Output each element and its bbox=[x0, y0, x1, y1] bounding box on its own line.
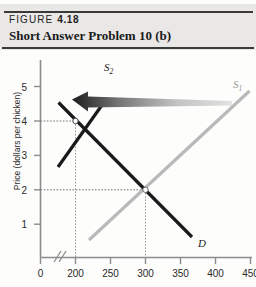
figure-caption-line: FIGURE 4.18 bbox=[9, 14, 79, 25]
x-tick-label-450: 450 bbox=[242, 268, 256, 279]
x-tick-label-250: 250 bbox=[102, 268, 119, 279]
curve-label-s2: S2 bbox=[104, 61, 114, 76]
x-axis-break-icon bbox=[54, 251, 66, 262]
x-tick-label-400: 400 bbox=[207, 268, 224, 279]
curve-label-d: D bbox=[197, 237, 206, 249]
equilibrium-marker-old bbox=[143, 187, 148, 192]
figure-panel: FIGURE 4.18 Short Answer Problem 10 (b) … bbox=[0, 0, 256, 287]
curve-label-s1: S1 bbox=[233, 78, 242, 93]
y-axis-ticks bbox=[34, 87, 41, 225]
supply-shift-arrow bbox=[72, 92, 232, 112]
y-tick-label-2: 2 bbox=[21, 185, 27, 196]
x-tick-label-0: 0 bbox=[38, 268, 44, 279]
page-title: Short Answer Problem 10 (b) bbox=[9, 28, 171, 44]
x-tick-label-300: 300 bbox=[137, 268, 154, 279]
y-tick-label-3: 3 bbox=[21, 150, 27, 161]
x-tick-label-350: 350 bbox=[172, 268, 189, 279]
header-rule-top bbox=[4, 11, 253, 13]
demand-curve-d bbox=[59, 103, 193, 238]
y-tick-label-5: 5 bbox=[21, 82, 27, 93]
header-rule-bottom bbox=[2, 47, 254, 49]
axes bbox=[41, 60, 253, 258]
y-tick-label-1: 1 bbox=[21, 219, 27, 230]
x-tick-label-200: 200 bbox=[67, 268, 84, 279]
chart-area: Price (dollars per chicken) bbox=[0, 50, 256, 287]
supply-demand-chart: 5 4 3 2 1 0 200 250 300 350 400 450 bbox=[0, 50, 256, 287]
equilibrium-marker-new bbox=[73, 118, 78, 123]
x-axis-ticks bbox=[41, 258, 251, 265]
figure-number: 4.18 bbox=[57, 14, 79, 25]
figure-word: FIGURE bbox=[9, 14, 53, 25]
supply-curve-s1 bbox=[89, 91, 250, 240]
y-tick-label-4: 4 bbox=[21, 116, 27, 127]
